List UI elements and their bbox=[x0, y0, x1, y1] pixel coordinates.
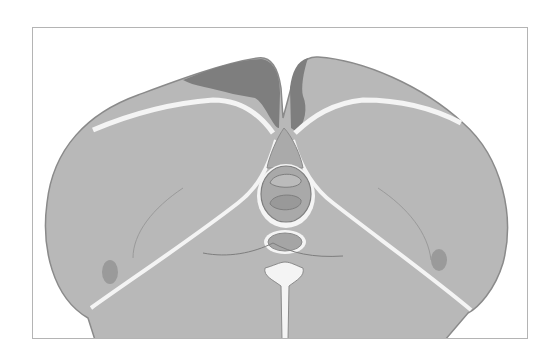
small-node-right bbox=[431, 249, 447, 271]
small-node-left bbox=[102, 260, 118, 284]
figure-frame bbox=[32, 27, 528, 339]
anatomical-cross-section bbox=[33, 28, 528, 339]
